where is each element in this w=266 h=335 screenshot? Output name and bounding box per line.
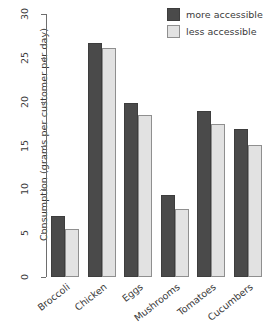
bar-more-accessible[interactable]: [51, 216, 65, 277]
legend-swatch-icon: [167, 8, 180, 21]
bar-less-accessible[interactable]: [211, 124, 225, 277]
legend-label: more accessible: [186, 9, 263, 20]
bar-group: [88, 14, 116, 277]
bar-less-accessible[interactable]: [102, 48, 116, 277]
y-axis-tick-label: 5: [12, 227, 38, 239]
bar-group: [161, 14, 189, 277]
y-axis-tick: [41, 233, 46, 234]
y-axis-tick: [41, 277, 46, 278]
y-axis-tick: [41, 14, 46, 15]
legend-swatch-icon: [167, 25, 180, 38]
bar-group: [51, 14, 79, 277]
bar-less-accessible[interactable]: [65, 229, 79, 277]
y-axis-tick-text: 20: [19, 89, 31, 115]
bar-less-accessible[interactable]: [248, 145, 262, 277]
plot-area: [47, 14, 266, 277]
bar-more-accessible[interactable]: [197, 111, 211, 277]
y-axis-tick: [41, 102, 46, 103]
bar-more-accessible[interactable]: [234, 129, 248, 277]
bar-group: [124, 14, 152, 277]
chart-legend: more accessibleless accessible: [167, 6, 263, 40]
y-axis-tick: [41, 58, 46, 59]
legend-item[interactable]: more accessible: [167, 6, 263, 23]
y-axis-tick-label: 30: [12, 8, 38, 20]
y-axis-tick-label: 15: [12, 140, 38, 152]
bar-chart: Consumption (grams per customer per day)…: [0, 0, 266, 335]
legend-label: less accessible: [186, 26, 257, 37]
y-axis-tick-label: 25: [12, 52, 38, 64]
y-axis-tick: [41, 189, 46, 190]
legend-item[interactable]: less accessible: [167, 23, 263, 40]
y-axis-tick-text: 30: [19, 1, 31, 27]
bar-less-accessible[interactable]: [175, 209, 189, 277]
y-axis-tick-text: 15: [19, 133, 31, 159]
x-axis-label-broccoli: Broccoli: [0, 281, 72, 335]
bar-more-accessible[interactable]: [88, 43, 102, 277]
y-axis-tick: [41, 146, 46, 147]
bar-more-accessible[interactable]: [161, 195, 175, 277]
y-axis-tick-text: 10: [19, 176, 31, 202]
y-axis-tick-label: 10: [12, 183, 38, 195]
bar-group: [234, 14, 262, 277]
y-axis-tick-label: 20: [12, 96, 38, 108]
y-axis-tick-text: 25: [19, 45, 31, 71]
bar-more-accessible[interactable]: [124, 103, 138, 277]
y-axis-tick-label: 0: [12, 271, 38, 283]
y-axis-tick-text: 5: [19, 220, 31, 246]
bar-group: [197, 14, 225, 277]
bar-less-accessible[interactable]: [138, 115, 152, 277]
y-axis-tick-text: 0: [19, 264, 31, 290]
